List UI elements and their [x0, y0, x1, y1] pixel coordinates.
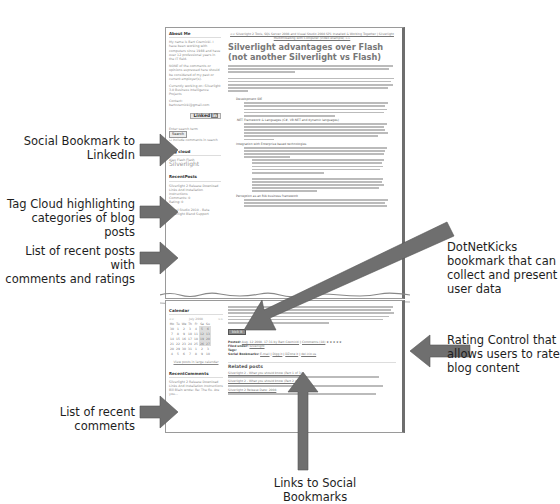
callout-dotnetkicks: DotNetKicks bookmark that can collect an… — [447, 240, 560, 296]
arrow-right-icon — [140, 396, 178, 428]
callout-recent-posts: List of recent posts with comments and r… — [0, 244, 135, 286]
callout-tag-cloud: Tag Cloud highlighting categories of blo… — [0, 197, 135, 239]
callout-linkedin: Social Bookmark to LinkedIn — [0, 134, 135, 162]
arrow-right-icon — [140, 134, 178, 166]
arrow-up-icon — [288, 372, 318, 470]
arrow-right-icon — [140, 242, 178, 274]
arrow-diagonal-icon — [244, 222, 454, 330]
arrow-right-icon — [140, 196, 178, 228]
callout-social-links: Links to Social Bookmarks — [240, 476, 390, 504]
callout-rating: Rating Control that allows users to rate… — [447, 333, 560, 375]
callout-recent-comments: List of recent comments — [0, 405, 135, 433]
